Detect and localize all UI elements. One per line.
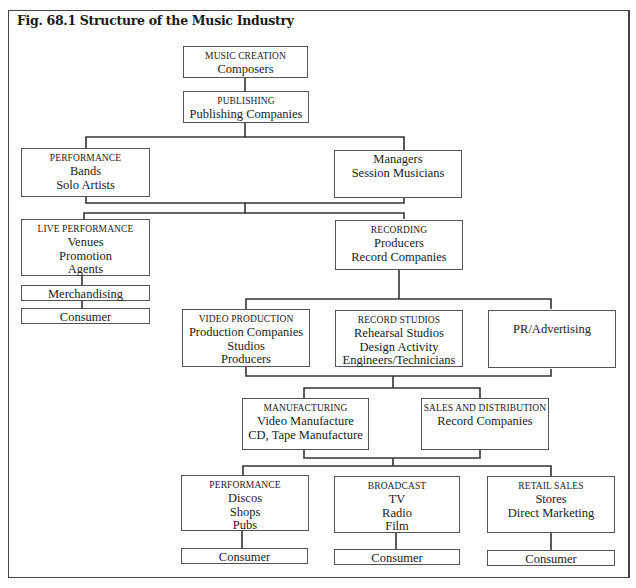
node-line: Managers	[335, 153, 461, 167]
node-heading: SALES AND DISTRIBUTION	[422, 401, 548, 415]
node-performance-venues: PERFORMANCE Discos Shops Pubs	[181, 475, 309, 531]
node-line: Composers	[184, 63, 307, 77]
node-consumer-broadcast: Consumer	[334, 549, 460, 565]
node-line: Merchandising	[22, 286, 149, 302]
node-line: Engineers/Technicians	[336, 354, 462, 368]
node-live-performance: LIVE PERFORMANCE Venues Promotion Agents	[21, 219, 150, 276]
node-line: Record Companies	[422, 415, 548, 429]
node-line: Production Companies	[183, 326, 309, 340]
node-line: Agents	[22, 263, 149, 277]
node-manufacturing: MANUFACTURING Video Manufacture CD, Tape…	[242, 398, 369, 450]
node-heading: MUSIC CREATION	[184, 49, 307, 63]
node-heading: PERFORMANCE	[22, 151, 149, 165]
node-sales-distribution: SALES AND DISTRIBUTION Record Companies	[421, 398, 549, 450]
node-heading: RETAIL SALES	[488, 479, 614, 493]
node-heading: PERFORMANCE	[182, 478, 308, 492]
node-heading: RECORDING	[336, 223, 462, 237]
node-video-production: VIDEO PRODUCTION Production Companies St…	[182, 309, 310, 367]
node-music-creation: MUSIC CREATION Composers	[183, 46, 308, 78]
node-merchandising: Merchandising	[21, 285, 150, 301]
node-heading: BROADCAST	[335, 479, 459, 493]
node-consumer-live: Consumer	[21, 308, 150, 324]
node-publishing: PUBLISHING Publishing Companies	[183, 91, 309, 123]
node-line: Shops	[182, 506, 308, 520]
node-line: Record Companies	[336, 251, 462, 265]
node-line: TV	[335, 493, 459, 507]
node-heading: VIDEO PRODUCTION	[183, 312, 309, 326]
node-consumer-retail: Consumer	[487, 550, 615, 566]
node-line: Producers	[336, 237, 462, 251]
node-heading: MANUFACTURING	[243, 401, 368, 415]
node-performance-artists: PERFORMANCE Bands Solo Artists	[21, 148, 150, 197]
node-broadcast: BROADCAST TV Radio Film	[334, 476, 460, 533]
node-line: CD, Tape Manufacture	[243, 429, 368, 443]
node-recording: RECORDING Producers Record Companies	[335, 220, 463, 270]
node-line: Consumer	[182, 549, 307, 565]
node-line: Consumer	[488, 551, 614, 567]
node-line: Consumer	[22, 309, 149, 325]
node-line: Session Musicians	[335, 167, 461, 181]
node-line: Rehearsal Studios	[336, 327, 462, 341]
node-line: Film	[335, 520, 459, 534]
node-retail-sales: RETAIL SALES Stores Direct Marketing	[487, 476, 615, 533]
node-managers: Managers Session Musicians	[334, 150, 462, 198]
node-line: Venues	[22, 236, 149, 250]
node-line: Producers	[183, 353, 309, 367]
node-line: Design Activity	[336, 341, 462, 355]
node-heading: RECORD STUDIOS	[336, 313, 462, 327]
node-consumer-performance: Consumer	[181, 548, 308, 564]
node-record-studios: RECORD STUDIOS Rehearsal Studios Design …	[335, 310, 463, 367]
node-line: PR/Advertising	[489, 323, 615, 337]
node-pr-advertising: PR/Advertising	[488, 310, 616, 368]
node-line: Video Manufacture	[243, 415, 368, 429]
node-line: Bands	[22, 165, 149, 179]
node-heading: PUBLISHING	[184, 94, 308, 108]
node-line: Discos	[182, 492, 308, 506]
node-heading: LIVE PERFORMANCE	[22, 222, 149, 236]
node-line: Studios	[183, 340, 309, 354]
node-line: Promotion	[22, 250, 149, 264]
node-line: Direct Marketing	[488, 507, 614, 521]
node-line: Pubs	[182, 519, 308, 533]
node-line: Radio	[335, 507, 459, 521]
node-line: Publishing Companies	[184, 108, 308, 122]
node-line: Stores	[488, 493, 614, 507]
node-line: Consumer	[335, 550, 459, 566]
node-line: Solo Artists	[22, 179, 149, 193]
